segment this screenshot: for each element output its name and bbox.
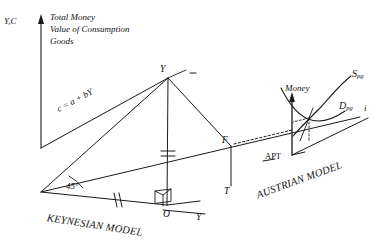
interest-rate-axis-label: i [364,103,367,113]
apex-to-origin-vertical [167,78,168,205]
vertical-axis-label: Y,C [4,16,16,26]
base-edge-to-origin-right [167,201,200,205]
apex-short-ray [168,70,186,78]
f-to-apt-dotted-line [234,130,292,144]
equilibrium-ray [300,108,313,141]
money-axis-arrowhead [289,92,295,102]
angle-label: 45° [66,181,79,191]
base-front-edge-left [41,192,167,205]
horizontal-axis-label: Y [196,212,201,223]
demand-curve-subscript: pg [346,104,353,111]
vertical-axis-arrowhead [38,14,44,24]
diagram-canvas: Y,C Total Money Value of Consumption Goo… [0,0,379,251]
point-t-label: T [224,186,229,197]
origin-point-label: O [163,209,170,220]
apt-label: APT [265,152,281,162]
money-axis-label: Money [285,83,310,93]
demand-curve-label: Dpg [339,100,353,112]
supply-curve-subscript: pg [357,72,364,79]
apex-point-label: Y [160,64,165,75]
axis-caption-line-1: Total Money [50,12,95,22]
axis-caption-line-3: Goods [50,36,74,46]
point-f-label: F [222,135,228,146]
axis-caption-line-2: Value of Consumption [50,24,130,34]
forty-five-degree-line [41,78,168,192]
supply-curve-label: Spg [352,68,364,80]
